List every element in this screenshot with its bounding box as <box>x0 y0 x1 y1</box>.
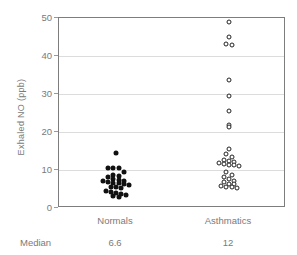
y-axis-tick-mark <box>54 17 58 18</box>
gridline <box>59 132 284 133</box>
data-point <box>116 194 121 199</box>
median-value: 6.6 <box>108 235 121 251</box>
plot-area <box>58 17 285 207</box>
y-axis-tick-mark <box>54 55 58 56</box>
category-label: Asthmatics <box>205 213 251 229</box>
median-row: Median 6.612 <box>0 235 297 251</box>
y-axis-tick-mark <box>54 93 58 94</box>
y-axis-tick-mark <box>54 169 58 170</box>
data-point <box>227 124 232 129</box>
y-axis-tick-label: 20 <box>10 126 52 137</box>
data-point <box>127 183 132 188</box>
data-point <box>234 186 239 191</box>
median-caption: Median <box>20 235 51 251</box>
y-axis-tick-label: 0 <box>10 202 52 213</box>
data-point <box>119 186 124 191</box>
y-axis-tick-label: 30 <box>10 88 52 99</box>
data-point <box>237 164 242 169</box>
data-point <box>227 146 232 151</box>
data-point <box>227 109 232 114</box>
y-axis-tick-label: 50 <box>10 12 52 23</box>
y-axis-title: Exhaled NO (ppb) <box>14 52 28 182</box>
gridline <box>59 56 284 57</box>
gridline <box>59 170 284 171</box>
data-point <box>229 43 234 48</box>
y-axis-tick-label: 10 <box>10 164 52 175</box>
median-value: 12 <box>223 235 234 251</box>
data-point <box>227 78 232 83</box>
data-point <box>114 150 119 155</box>
data-point <box>227 35 232 40</box>
y-axis-tick-mark <box>54 131 58 132</box>
y-axis-tick-mark <box>54 207 58 208</box>
data-point <box>124 193 129 198</box>
dot-plot-chart: Exhaled NO (ppb) 01020304050 NormalsAsth… <box>0 0 297 255</box>
category-label-row: NormalsAsthmatics <box>0 213 297 229</box>
y-axis-tick-label: 40 <box>10 50 52 61</box>
data-point <box>121 169 126 174</box>
data-point <box>227 93 232 98</box>
category-label: Normals <box>97 213 132 229</box>
gridline <box>59 94 284 95</box>
data-point <box>227 19 232 24</box>
